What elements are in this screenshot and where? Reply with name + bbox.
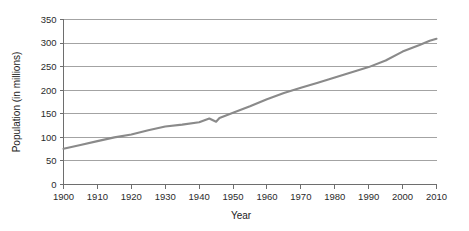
y-tick-label: 300	[41, 37, 57, 48]
population-line-chart: 050100150200250300350 190019101920193019…	[0, 0, 469, 231]
x-tick-label: 1900	[53, 191, 74, 202]
data-series	[64, 39, 437, 149]
x-axis-tick-labels: 1900191019201930194019501960197019801990…	[53, 191, 447, 202]
axis-lines	[64, 20, 437, 185]
series-line-population	[64, 39, 437, 149]
y-tick-label: 0	[51, 179, 56, 190]
x-tick-label: 1910	[87, 191, 108, 202]
x-tick-label: 1940	[189, 191, 210, 202]
x-axis-title: Year	[231, 210, 252, 221]
y-tick-label: 100	[41, 132, 57, 143]
x-tick-label: 1990	[358, 191, 379, 202]
x-tick-label: 1920	[121, 191, 142, 202]
x-tick-label: 1960	[256, 191, 277, 202]
y-axis-tick-labels: 050100150200250300350	[41, 14, 57, 190]
axis-ticks	[60, 20, 437, 189]
y-tick-label: 350	[41, 14, 57, 25]
x-tick-label: 2000	[392, 191, 413, 202]
x-tick-label: 1980	[324, 191, 345, 202]
y-tick-label: 200	[41, 85, 57, 96]
x-tick-label: 1970	[290, 191, 311, 202]
y-tick-label: 250	[41, 61, 57, 72]
y-axis-title: Population (in millions)	[11, 52, 22, 153]
x-tick-label: 1930	[155, 191, 176, 202]
x-tick-label: 1950	[222, 191, 243, 202]
chart-canvas: 050100150200250300350 190019101920193019…	[0, 0, 469, 231]
y-tick-label: 150	[41, 108, 57, 119]
x-tick-label: 2010	[426, 191, 447, 202]
gridlines	[64, 20, 437, 185]
y-tick-label: 50	[46, 155, 57, 166]
